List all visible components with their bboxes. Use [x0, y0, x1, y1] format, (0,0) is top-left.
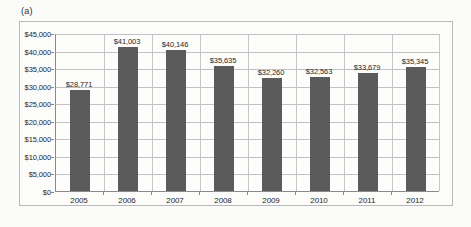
y-axis-tick-mark [51, 174, 54, 175]
x-axis-tick-label: 2010 [310, 196, 327, 205]
x-axis-tick-label: 2008 [214, 196, 231, 205]
bar [118, 47, 138, 191]
gridline-vertical [344, 34, 345, 191]
x-axis-tick-label: 2011 [359, 196, 376, 205]
x-axis-tick-label: 2012 [406, 196, 423, 205]
x-axis-tick-mark [103, 192, 104, 195]
y-axis-tick-mark [51, 104, 54, 105]
y-axis-tick-mark [51, 192, 54, 193]
y-axis-tick-mark [51, 87, 54, 88]
y-axis-tick-mark [51, 34, 54, 35]
panel-label: (a) [21, 6, 33, 16]
x-axis-tick-label: 2006 [118, 196, 135, 205]
y-axis-tick-mark [51, 157, 54, 158]
bar [406, 67, 426, 191]
y-axis-tick-marks [0, 34, 58, 192]
gridline-vertical [152, 34, 153, 191]
gridline-vertical [296, 34, 297, 191]
y-axis-tick-mark [51, 139, 54, 140]
x-axis-tick-mark [199, 192, 200, 195]
gridline-vertical [104, 34, 105, 191]
bar [358, 73, 378, 191]
bar-value-label: $41,003 [114, 37, 140, 46]
x-axis-tick-mark [343, 192, 344, 195]
x-axis-tick-label: 2005 [70, 196, 87, 205]
gridline-vertical [200, 34, 201, 191]
bar-value-label: $32,260 [258, 68, 284, 77]
bar-value-label: $28,771 [66, 80, 92, 89]
plot-area [55, 34, 439, 192]
bar-value-label: $35,635 [210, 56, 236, 65]
bar-value-label: $32,563 [306, 67, 332, 76]
bar [214, 66, 234, 191]
figure-panel: (a) $0$5,000$10,000$15,000$20,000$25,000… [0, 0, 471, 227]
x-axis-tick-mark [247, 192, 248, 195]
x-axis-tick-mark [151, 192, 152, 195]
bar [70, 90, 90, 191]
bar-value-label: $40,146 [162, 40, 188, 49]
bar [262, 78, 282, 191]
bar-value-label: $33,679 [354, 63, 380, 72]
y-axis-tick-mark [51, 122, 54, 123]
y-axis-tick-mark [51, 69, 54, 70]
x-axis-tick-mark [391, 192, 392, 195]
gridline-vertical [248, 34, 249, 191]
gridline-vertical [439, 34, 440, 191]
gridline-vertical [392, 34, 393, 191]
y-axis-tick-mark [51, 52, 54, 53]
bar [166, 50, 186, 191]
x-axis-tick-mark [295, 192, 296, 195]
x-axis-tick-label: 2007 [166, 196, 183, 205]
bar [310, 77, 330, 191]
bar-value-label: $35,345 [402, 57, 428, 66]
x-axis-tick-label: 2009 [262, 196, 279, 205]
